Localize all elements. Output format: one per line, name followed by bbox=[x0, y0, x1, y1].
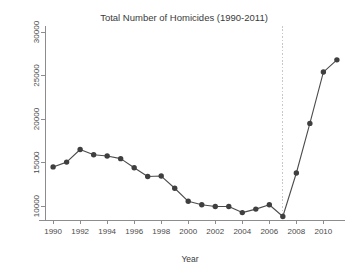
y-tick-label: 30000 bbox=[32, 20, 41, 43]
data-point-marker bbox=[226, 204, 231, 209]
data-point-marker bbox=[91, 152, 96, 157]
data-point-marker bbox=[267, 202, 272, 207]
y-tick-label: 15000 bbox=[32, 151, 41, 174]
y-tick-label: 20000 bbox=[32, 107, 41, 130]
y-tick-label: 10000 bbox=[32, 194, 41, 217]
x-tick-label: 1992 bbox=[71, 227, 89, 236]
data-point-marker bbox=[172, 186, 177, 191]
x-tick-label: 2010 bbox=[314, 227, 332, 236]
x-tick-label: 2006 bbox=[260, 227, 278, 236]
x-tick-label: 2004 bbox=[233, 227, 251, 236]
data-point-marker bbox=[50, 164, 55, 169]
data-point-marker bbox=[294, 170, 299, 175]
y-tick-label: 25000 bbox=[32, 64, 41, 87]
data-point-marker bbox=[199, 202, 204, 207]
chart-title: Total Number of Homicides (1990-2011) bbox=[100, 12, 268, 23]
data-point-marker bbox=[118, 156, 123, 161]
data-point-marker bbox=[307, 121, 312, 126]
chart-figure: Total Number of Homicides (1990-2011) 10… bbox=[0, 0, 363, 273]
data-point-marker bbox=[186, 199, 191, 204]
data-point-marker bbox=[321, 69, 326, 74]
x-tick-label: 2002 bbox=[206, 227, 224, 236]
data-point-marker bbox=[213, 204, 218, 209]
x-tick-label: 2000 bbox=[179, 227, 197, 236]
data-point-marker bbox=[104, 153, 109, 158]
x-tick-label: 1994 bbox=[98, 227, 116, 236]
data-point-marker bbox=[159, 173, 164, 178]
x-tick-label: 1998 bbox=[152, 227, 170, 236]
homicides-line-chart: Total Number of Homicides (1990-2011) 10… bbox=[0, 0, 363, 273]
data-point-marker bbox=[253, 206, 258, 211]
data-point-marker bbox=[334, 57, 339, 62]
x-tick-label: 2008 bbox=[287, 227, 305, 236]
data-point-marker bbox=[64, 159, 69, 164]
data-point-marker bbox=[145, 174, 150, 179]
data-point-marker bbox=[131, 165, 136, 170]
x-tick-label: 1990 bbox=[44, 227, 62, 236]
data-point-marker bbox=[280, 214, 285, 219]
data-point-marker bbox=[77, 147, 82, 152]
data-point-marker bbox=[240, 210, 245, 215]
x-tick-label: 1996 bbox=[125, 227, 143, 236]
x-axis-title: Year bbox=[181, 254, 198, 264]
